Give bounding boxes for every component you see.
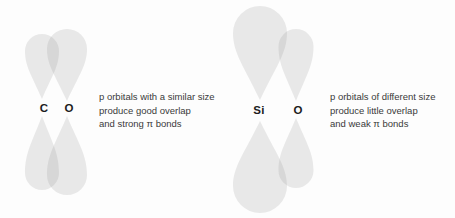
p-orbital-lobe-o-left: [47, 29, 87, 101]
caption-co-overlap: p orbitals with a similar size produce g…: [99, 90, 215, 131]
atom-label-c: C: [40, 102, 49, 114]
caption-line: produce good overlap: [99, 104, 215, 118]
caption-line: p orbitals of different size: [330, 90, 435, 104]
atom-label-si: Si: [253, 104, 264, 116]
p-orbital-lobe-o-right: [279, 118, 314, 188]
atom-label-o-left: O: [64, 102, 73, 114]
caption-line: and weak π bonds: [330, 117, 435, 131]
p-orbital-lobe-o-left: [47, 116, 87, 195]
p-orbital-lobe-o-right: [279, 29, 314, 101]
orbital-overlap-figure: C O Si O p orbitals with a similar size …: [0, 0, 455, 218]
caption-line: and strong π bonds: [99, 117, 215, 131]
caption-line: p orbitals with a similar size: [99, 90, 215, 104]
atom-label-o-right: O: [293, 104, 302, 116]
caption-line: produce little overlap: [330, 104, 435, 118]
caption-sio-overlap: p orbitals of different size produce lit…: [330, 90, 435, 131]
